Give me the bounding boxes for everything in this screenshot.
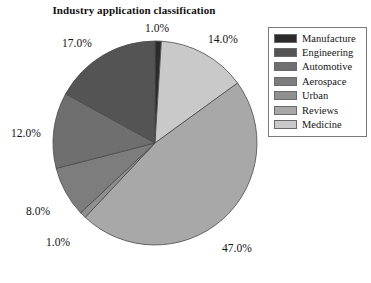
legend-swatch-icon: [274, 62, 297, 71]
legend-swatch-icon: [274, 34, 297, 43]
pct-label-top: 1.0%: [145, 22, 169, 34]
legend: ManufactureEngineeringAutomotiveAerospac…: [268, 27, 367, 137]
legend-item: Manufacture: [274, 31, 362, 45]
pie-chart-figure: Industry application classification 1.0%…: [0, 0, 371, 283]
pct-label-upper-left: 17.0%: [62, 37, 92, 49]
pct-label-lower-right: 47.0%: [222, 242, 252, 254]
pct-label-bottom-left: 1.0%: [46, 236, 70, 248]
legend-item-label: Engineering: [302, 47, 353, 58]
legend-swatch-icon: [274, 48, 297, 57]
legend-item: Medicine: [274, 117, 362, 131]
pct-label-left-lower: 8.0%: [26, 205, 50, 217]
legend-item-label: Reviews: [302, 105, 338, 116]
legend-swatch-icon: [274, 77, 297, 86]
pie-wedge-group: [53, 41, 257, 245]
legend-item-label: Automotive: [302, 61, 352, 72]
pct-label-upper-right: 14.0%: [208, 33, 238, 45]
legend-item-label: Manufacture: [302, 33, 356, 44]
legend-swatch-icon: [274, 120, 297, 129]
legend-item-label: Medicine: [302, 119, 342, 130]
legend-item: Urban: [274, 89, 362, 103]
legend-item: Engineering: [274, 45, 362, 59]
legend-item-label: Urban: [302, 90, 328, 101]
legend-swatch-icon: [274, 91, 297, 100]
legend-item: Aerospace: [274, 74, 362, 88]
pct-label-left-mid: 12.0%: [11, 127, 41, 139]
legend-item: Reviews: [274, 103, 362, 117]
legend-swatch-icon: [274, 106, 297, 115]
legend-item: Automotive: [274, 60, 362, 74]
legend-item-label: Aerospace: [302, 76, 346, 87]
